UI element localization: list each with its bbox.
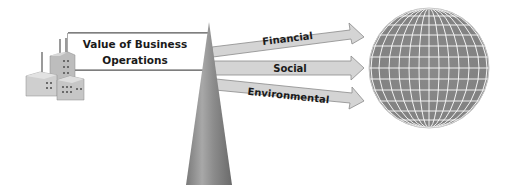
diagram-canvas: Value of Business Operations Fi xyxy=(0,0,513,192)
globe-icon xyxy=(369,8,489,128)
source-label-line1: Value of Business xyxy=(83,38,187,50)
arrow-label-social: Social xyxy=(273,63,307,74)
source-label-line2: Operations xyxy=(102,54,167,66)
source-box: Value of Business Operations xyxy=(68,33,210,70)
arrow-social: Social xyxy=(214,56,364,80)
arrow-financial: Financial xyxy=(212,23,364,57)
arrow-environmental: Environmental xyxy=(215,79,364,109)
